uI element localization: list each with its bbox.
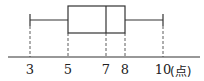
tick-label: 3 (26, 62, 34, 77)
unit-label: (点) (170, 62, 191, 79)
tick-label: 7 (102, 62, 110, 77)
box-plot: 3 5 7 8 10 (点) (0, 0, 204, 81)
box (68, 6, 125, 33)
tick-label: 5 (64, 62, 72, 77)
tick-label: 10 (155, 62, 172, 77)
tick-label: 8 (121, 62, 129, 77)
